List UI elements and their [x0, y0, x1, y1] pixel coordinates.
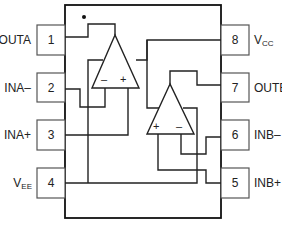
pin-3-number: 3 — [48, 128, 55, 142]
pin-8-number: 8 — [232, 33, 239, 47]
pin-3: 3 INA+ — [4, 120, 65, 150]
outa-wire — [65, 24, 115, 37]
pin-5-label: INB+ — [254, 176, 281, 190]
pin-1-number: 1 — [48, 33, 55, 47]
pin-7: 7 OUTB — [221, 73, 282, 102]
ina-minus-wire — [65, 88, 105, 107]
op-amp-a-triangle — [92, 35, 139, 88]
pin-6-number: 6 — [232, 128, 239, 142]
pin-6-label: INB– — [254, 128, 281, 142]
pin-4: 4 VEE — [13, 168, 65, 198]
pin-5: 5 INB+ — [221, 168, 281, 198]
pin-5-number: 5 — [232, 176, 239, 190]
pin-4-label-main: V — [13, 176, 21, 190]
pin-8-label-sub: CC — [262, 39, 274, 48]
pin-4-label-sub: EE — [21, 182, 32, 191]
op-amp-a-noninverting-sign: + — [120, 73, 126, 85]
pin-8-label: VCC — [254, 33, 274, 48]
op-amp-b: + – — [147, 84, 194, 134]
pin-7-label: OUTB — [254, 81, 282, 95]
pin-4-number: 4 — [48, 176, 55, 190]
op-amp-a: – + — [92, 35, 139, 88]
outb-wire — [170, 71, 221, 85]
pin-1-label: OUTA — [0, 33, 31, 47]
pin-4-label: VEE — [13, 176, 32, 191]
pin-2: 2 INA– — [4, 73, 65, 102]
pin1-orientation-dot — [82, 15, 86, 19]
pin-2-label: INA– — [4, 81, 31, 95]
inb-plus-wire — [158, 134, 221, 183]
ina-plus-wire — [65, 88, 128, 135]
vcc-wire-to-amp-a — [136, 40, 221, 60]
op-amp-b-inverting-sign: – — [176, 120, 183, 132]
pin-8-label-main: V — [254, 33, 262, 47]
pin-6: 6 INB– — [221, 120, 281, 150]
op-amp-b-noninverting-sign: + — [153, 120, 159, 132]
pin-2-number: 2 — [48, 81, 55, 95]
vcc-wire-to-amp-b — [147, 40, 159, 108]
pin-1: 1 OUTA — [0, 25, 65, 55]
pin-7-number: 7 — [232, 81, 239, 95]
op-amp-pinout-diagram: 1 OUTA 2 INA– 3 INA+ 4 VEE 8 VCC 7 OUTB … — [0, 0, 282, 226]
inb-minus-wire — [181, 134, 221, 154]
pin-8: 8 VCC — [221, 25, 274, 55]
pin-3-label: INA+ — [4, 128, 31, 142]
op-amp-a-inverting-sign: – — [101, 73, 108, 85]
